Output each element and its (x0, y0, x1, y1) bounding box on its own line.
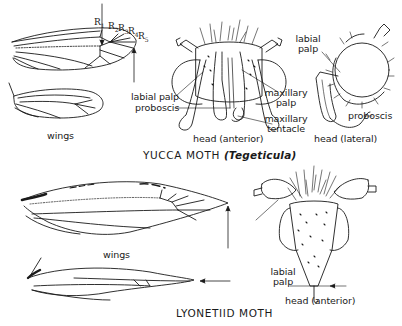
lyonetiid-wings-label: wings (103, 250, 130, 260)
vein-letter: R (118, 23, 125, 33)
lyonetiid-moth-title: LYONETIID MOTH (176, 307, 273, 319)
anterior-maxillary-palp-label: maxillary palp (264, 88, 308, 108)
anterior-maxillary-tentacle-label: maxillary tentacle (264, 114, 308, 134)
anterior-labial-palp-label: labial palp (131, 92, 179, 102)
title-common-name: YUCCA MOTH (143, 149, 220, 161)
lyonetiid-forewing-arrow (226, 206, 230, 248)
yucca-moth-title: YUCCA MOTH (Tegeticula) (143, 149, 296, 161)
vein-letter: R (94, 17, 101, 27)
vein-label-r5: R5 (138, 31, 149, 43)
lyonetiid-anterior-caption: head (anterior) (285, 296, 355, 306)
yucca-wing-arrows (100, 4, 136, 82)
vein-subscript: 5 (145, 36, 149, 43)
lyonetiid-hindwing-arrow (200, 279, 230, 283)
yucca-wings-label: wings (47, 131, 74, 141)
label-line-2: palp (293, 44, 323, 54)
yucca-lateral-caption: head (lateral) (314, 134, 377, 144)
yucca-anterior-caption: head (anterior) (193, 134, 263, 144)
vein-label-r1: R1 (94, 17, 105, 29)
vein-letter: R (138, 31, 145, 41)
lyonetiid-hindwing-drawing (28, 258, 194, 300)
yucca-hindwing-drawing (9, 83, 103, 118)
lyonetiid-labial-palp-label: labial palp (268, 267, 298, 287)
vein-letter: R (108, 21, 115, 31)
yucca-lateral-leader-lines (322, 52, 372, 116)
diagram-drawings (0, 0, 402, 326)
label-line-2: palp (268, 277, 298, 287)
vein-subscript: 1 (101, 22, 105, 29)
lateral-proboscis-label: proboscis (348, 111, 392, 121)
moth-diagram-figure: R1 R2 R3 R4 R5 wings labial palp probosc… (0, 0, 402, 326)
label-line-2: palp (264, 98, 308, 108)
lateral-labial-palp-label: labial palp (293, 34, 323, 54)
lyonetiid-forewing-drawing (22, 182, 228, 235)
title-genus: (Tegeticula) (224, 149, 297, 161)
vein-letter: R (128, 26, 135, 36)
anterior-proboscis-label: proboscis (135, 103, 179, 113)
label-line-2: tentacle (264, 124, 308, 134)
